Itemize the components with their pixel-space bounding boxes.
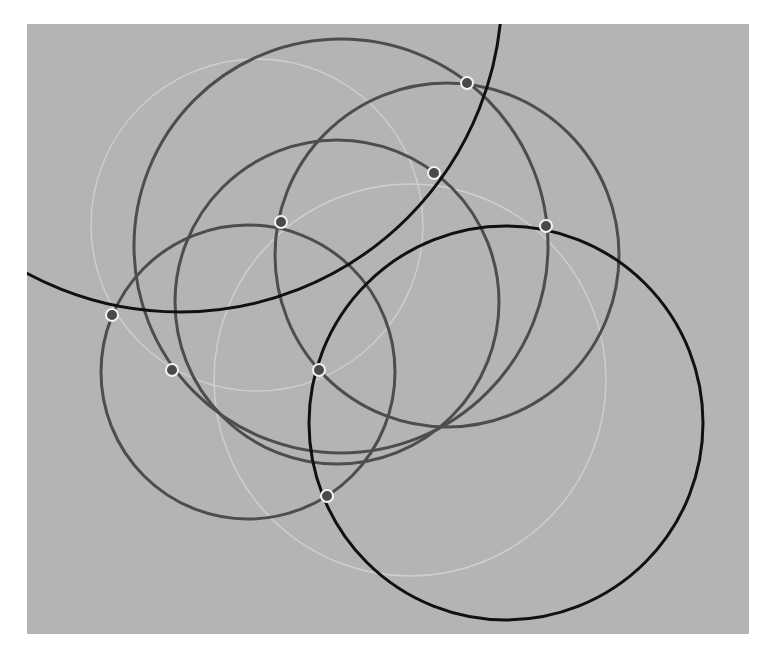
- intersection-point-p5[interactable]: [106, 309, 118, 321]
- intersection-point-p8[interactable]: [321, 490, 333, 502]
- intersection-point-p2[interactable]: [428, 167, 440, 179]
- intersection-point-p4[interactable]: [540, 220, 552, 232]
- intersection-point-p3[interactable]: [275, 216, 287, 228]
- diagram-canvas: [0, 0, 769, 656]
- intersection-point-p6[interactable]: [166, 364, 178, 376]
- intersection-point-p7[interactable]: [313, 364, 325, 376]
- intersection-point-p1[interactable]: [461, 77, 473, 89]
